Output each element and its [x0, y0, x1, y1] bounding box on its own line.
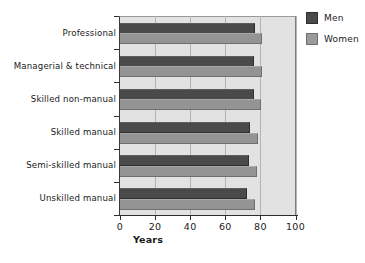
x-tick-label-100: 100 [286, 221, 305, 232]
gridline-80 [260, 16, 261, 215]
gridline-20 [155, 16, 156, 215]
y-tick-5 [114, 182, 119, 183]
legend-item-men: Men [306, 12, 359, 24]
category-label-2: Skilled non-manual [31, 94, 116, 104]
y-tick-3 [114, 116, 119, 117]
legend-item-women: Women [306, 33, 359, 45]
bar-men-2 [120, 89, 254, 100]
y-tick-4 [114, 149, 119, 150]
x-tick-60 [225, 215, 226, 220]
x-tick-label-40: 40 [184, 221, 197, 232]
bar-men-0 [120, 23, 255, 34]
category-label-5: Unskilled manual [40, 193, 116, 203]
bar-women-2 [120, 99, 261, 110]
legend-label-men: Men [324, 13, 344, 23]
bar-women-1 [120, 66, 262, 77]
bar-women-4 [120, 166, 257, 177]
x-axis-line [114, 215, 298, 216]
x-tick-label-20: 20 [149, 221, 162, 232]
x-axis-title: Years [0, 234, 296, 245]
y-tick-1 [114, 49, 119, 50]
legend-swatch-men-icon [306, 12, 318, 24]
gridline-40 [190, 16, 191, 215]
gridline-100 [296, 16, 297, 215]
x-tick-label-60: 60 [219, 221, 232, 232]
gridline-60 [225, 16, 226, 215]
category-label-4: Semi-skilled manual [26, 160, 116, 170]
bar-women-3 [120, 133, 258, 144]
category-label-0: Professional [63, 28, 116, 38]
legend-swatch-women-icon [306, 33, 318, 45]
bar-men-5 [120, 188, 247, 199]
bar-women-5 [120, 199, 255, 210]
bar-women-0 [120, 33, 262, 44]
bar-men-4 [120, 155, 249, 166]
x-tick-label-80: 80 [254, 221, 267, 232]
legend-label-women: Women [324, 34, 359, 44]
x-tick-100 [296, 215, 297, 220]
legend: Men Women [306, 12, 359, 54]
category-label-1: Managerial & technical [14, 61, 116, 71]
x-tick-80 [260, 215, 261, 220]
x-tick-0 [120, 215, 121, 220]
bar-men-3 [120, 122, 250, 133]
bar-men-1 [120, 56, 254, 67]
category-label-3: Skilled manual [51, 127, 116, 137]
x-tick-40 [190, 215, 191, 220]
y-tick-2 [114, 82, 119, 83]
plot-area [119, 16, 296, 215]
bar-chart: ProfessionalManagerial & technicalSkille… [0, 0, 365, 263]
x-tick-label-0: 0 [117, 221, 123, 232]
x-tick-20 [155, 215, 156, 220]
y-tick-0 [114, 16, 119, 17]
